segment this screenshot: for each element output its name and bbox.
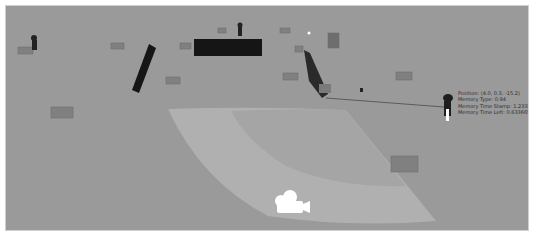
box [319, 84, 331, 93]
camera-gizmo-icon[interactable] [272, 188, 316, 218]
wall-slanted-left [132, 44, 156, 93]
sight-line [326, 98, 444, 107]
small-object [360, 88, 363, 92]
agent-info-label: Position: (4.0, 0.3, -15.2) Memory Type:… [458, 90, 529, 116]
wall-block [194, 39, 262, 56]
agent-memory-time-left: Memory Time Left: 0.633665 [458, 109, 529, 115]
npc-character [238, 23, 243, 37]
scene-viewport[interactable]: Position: (4.0, 0.3, -15.2) Memory Type:… [5, 5, 529, 231]
scene-render [6, 6, 529, 231]
light-point [308, 32, 311, 35]
agent-character [443, 94, 453, 121]
